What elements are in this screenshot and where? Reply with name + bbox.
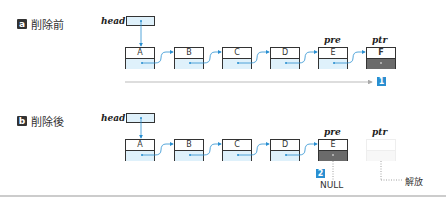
arrows-layer (0, 0, 446, 199)
linked-list-deletion-diagram: a 削除前 head A B C D pre E ptr F 1 b 削除後 h… (0, 0, 446, 199)
